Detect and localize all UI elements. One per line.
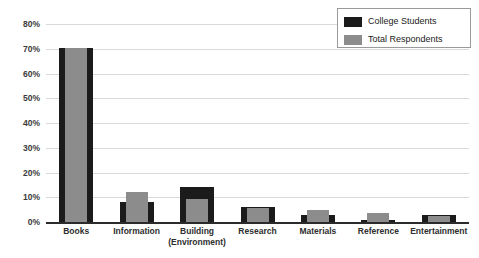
axis-baseline [46,222,469,224]
gridline-30 [46,148,469,149]
x-axis-label-line1: Building [180,226,214,236]
chart-title [0,0,479,1]
y-axis-tick-label: 70% [0,45,40,53]
gridline-70 [46,49,469,50]
bar-total-respondents [186,199,208,223]
x-axis-label: Books [46,226,106,237]
x-axis-label-line1: Reference [358,226,399,236]
x-axis-label-line1: Entertainment [410,226,467,236]
x-axis-label-line1: Information [113,226,160,236]
y-axis-tick-label: 0% [0,218,40,226]
x-axis-label: Reference [348,226,408,237]
legend-label: Total Respondents [368,34,443,45]
bar-total-respondents [428,216,450,222]
bar-total-respondents [126,192,148,222]
chart-legend[interactable]: College StudentsTotal Respondents [337,8,471,48]
gridline-20 [46,173,469,174]
legend-swatch-icon [344,35,362,45]
gridline-50 [46,98,469,99]
gridline-10 [46,197,469,198]
gridline-60 [46,74,469,75]
x-axis-label: Entertainment [409,226,469,237]
x-axis-label: Information [106,226,166,237]
bar-chart: 0%10%20%30%40%50%60%70%80% BooksInformat… [0,0,479,258]
x-axis-label: Materials [288,226,348,237]
y-axis-tick-label: 10% [0,193,40,201]
x-axis-label-line1: Books [63,226,89,236]
y-axis-tick-label: 20% [0,169,40,177]
plot-area [46,24,469,222]
y-axis-tick-label: 30% [0,144,40,152]
y-axis-tick-label: 40% [0,119,40,127]
x-axis-label-line1: Materials [299,226,336,236]
gridline-40 [46,123,469,124]
x-axis-label-line1: Research [238,226,276,236]
bar-total-respondents [307,210,329,222]
y-axis-tick-label: 60% [0,70,40,78]
legend-label: College Students [368,16,437,27]
x-axis-label: Building(Environment) [167,226,227,248]
bar-total-respondents [367,213,389,222]
x-axis-label-line2: (Environment) [167,237,227,248]
bar-total-respondents [65,48,87,222]
legend-swatch-icon [344,17,362,27]
y-axis-tick-label: 80% [0,20,40,28]
x-axis-label: Research [227,226,287,237]
y-axis-tick-label: 50% [0,94,40,102]
bar-total-respondents [247,208,269,222]
